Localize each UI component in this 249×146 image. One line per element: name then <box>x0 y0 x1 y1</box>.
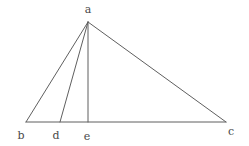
vertex-label-d: d <box>52 130 59 141</box>
segment-side-ab <box>26 22 88 122</box>
geometry-figure: a b d e c <box>0 0 249 146</box>
triangle-diagram <box>0 0 249 146</box>
vertex-label-a: a <box>85 4 92 15</box>
vertex-label-e: e <box>84 131 91 142</box>
segment-group <box>26 22 226 122</box>
vertex-label-b: b <box>17 130 24 141</box>
segment-cevian-ad <box>60 22 88 122</box>
vertex-label-c: c <box>228 126 234 137</box>
segment-side-ac <box>88 22 226 122</box>
